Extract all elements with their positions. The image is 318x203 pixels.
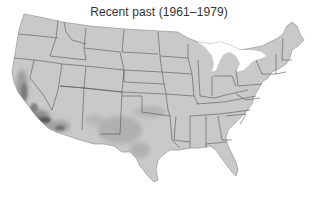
us-map [0, 0, 318, 203]
